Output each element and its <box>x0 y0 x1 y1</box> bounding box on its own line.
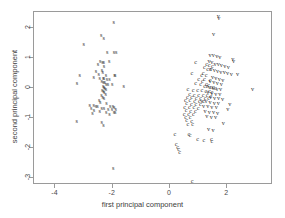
data-point: s <box>78 72 80 78</box>
x-tick-label: -4 <box>51 189 57 196</box>
data-point: v <box>222 120 225 126</box>
data-point: s <box>92 74 94 80</box>
x-axis-label: first principal component <box>0 200 285 209</box>
y-tick-label: 2 <box>24 22 31 32</box>
data-point: s <box>102 35 104 41</box>
data-point: v <box>230 71 233 77</box>
data-point: c <box>197 105 200 111</box>
data-point: c <box>191 121 194 127</box>
data-point: s <box>102 122 104 128</box>
data-point: c <box>186 121 189 127</box>
data-point: v <box>211 127 214 133</box>
data-point: c <box>178 149 181 155</box>
data-point: s <box>111 81 113 87</box>
data-point: s <box>123 83 125 89</box>
data-points-layer: ssssssssssssssssssssssssssssssssssssssss… <box>33 11 272 184</box>
data-point: s <box>98 108 100 114</box>
y-tick-label: 0 <box>24 82 31 92</box>
x-tick-label: 2 <box>224 189 228 196</box>
data-point: c <box>190 70 193 76</box>
data-point: v <box>210 113 213 119</box>
data-point: s <box>97 61 99 67</box>
data-point: s <box>76 118 78 124</box>
data-point: c <box>174 131 177 137</box>
data-point: s <box>115 49 117 55</box>
x-tick-mark <box>169 184 170 188</box>
x-tick-label: -2 <box>109 189 115 196</box>
data-point: c <box>189 132 192 138</box>
x-tick-mark <box>112 184 113 188</box>
x-tick-label: 0 <box>167 189 171 196</box>
data-point: c <box>196 136 199 142</box>
data-point: v <box>232 58 235 64</box>
pca-scatter-plot: ssssssssssssssssssssssssssssssssssssssss… <box>0 0 285 218</box>
data-point: s <box>108 58 110 64</box>
data-point: v <box>226 106 229 112</box>
y-tick-label: -3 <box>24 172 31 182</box>
data-point: s <box>91 110 93 116</box>
data-point: s <box>108 111 110 117</box>
data-point: v <box>207 126 210 132</box>
data-point: v <box>218 54 221 60</box>
y-axis-label: second principal component <box>10 37 19 157</box>
data-point: v <box>221 96 224 102</box>
data-point: s <box>113 19 115 25</box>
data-point: c <box>211 138 214 144</box>
data-point: v <box>214 114 217 120</box>
y-tick-label: -2 <box>24 142 31 152</box>
data-point: s <box>105 108 107 114</box>
data-point: s <box>82 41 84 47</box>
data-point: v <box>205 113 208 119</box>
data-point: s <box>114 72 116 78</box>
data-point: v <box>212 31 215 37</box>
data-point: v <box>236 71 239 77</box>
data-point: s <box>106 49 108 55</box>
data-point: c <box>194 59 197 65</box>
data-point: s <box>112 165 114 171</box>
data-point: v <box>217 14 220 20</box>
data-point: c <box>203 136 206 142</box>
x-tick-mark <box>54 184 55 188</box>
y-tick-label: -1 <box>24 112 31 122</box>
data-point: v <box>251 85 254 91</box>
x-tick-mark <box>226 184 227 188</box>
data-point: c <box>191 178 194 184</box>
data-point: s <box>76 80 78 86</box>
y-tick-label: 1 <box>24 52 31 62</box>
data-point: s <box>114 109 116 115</box>
data-point: v <box>226 70 229 76</box>
